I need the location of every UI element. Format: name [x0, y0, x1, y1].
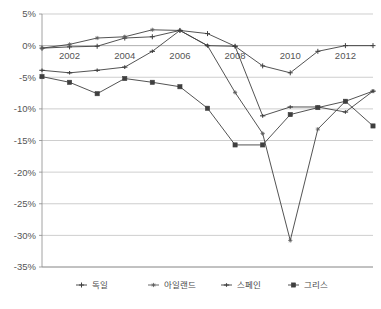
x-axis-tick-label: 2006 [169, 50, 190, 61]
legend-label: 아일랜드 [164, 280, 196, 290]
legend-item-2[interactable]: 아일랜드 [148, 280, 196, 290]
legend-item-4[interactable]: 그리스 [288, 280, 328, 290]
legend-item-1[interactable]: 독일 [76, 280, 108, 290]
x-axis-tick-label: 2002 [59, 50, 80, 61]
legend-label: 스페인 [237, 280, 261, 290]
data-point-marker [67, 80, 71, 84]
series-4 [40, 75, 375, 148]
x-axis-tick-label: 2004 [114, 50, 135, 61]
series-1 [40, 28, 376, 75]
y-axis-tick-label: -25% [14, 198, 37, 209]
legend-item-3[interactable]: 스페인 [221, 280, 261, 290]
data-point-marker [123, 76, 127, 80]
data-point-marker [150, 80, 154, 84]
data-point-marker [291, 283, 295, 287]
y-axis-tick-label: -15% [14, 135, 37, 146]
clipped-caption-fragment [2, 297, 58, 306]
y-axis-tick-label: -20% [14, 167, 37, 178]
legend-label: 독일 [92, 280, 108, 290]
legend-label: 그리스 [304, 280, 328, 290]
y-axis-tick-label: 5% [22, 8, 36, 19]
data-point-marker [316, 106, 320, 110]
line-chart: 5%0%-5%-10%-15%-20%-25%-30%-35%200220042… [0, 0, 381, 309]
data-point-marker [233, 143, 237, 147]
data-point-marker [95, 92, 99, 96]
series-2 [40, 28, 375, 243]
x-axis-tick-label: 2012 [335, 50, 356, 61]
y-axis-tick-label: 0% [22, 40, 36, 51]
data-point-marker [343, 99, 347, 103]
y-axis-tick-label: -5% [19, 72, 36, 83]
chart-canvas: 5%0%-5%-10%-15%-20%-25%-30%-35%200220042… [0, 0, 381, 309]
x-axis-tick-label: 2010 [280, 50, 301, 61]
data-point-marker [205, 106, 209, 110]
series-line [42, 30, 373, 72]
data-point-marker [40, 75, 44, 79]
series-line [42, 30, 373, 241]
y-axis-tick-label: -30% [14, 230, 37, 241]
data-point-marker [371, 124, 375, 128]
data-point-marker [288, 112, 292, 116]
series-line [42, 77, 373, 145]
y-axis-tick-label: -35% [14, 261, 37, 272]
y-axis-tick-label: -10% [14, 103, 37, 114]
series-3 [39, 29, 375, 118]
data-point-marker [261, 143, 265, 147]
data-point-marker [178, 85, 182, 89]
series-line [42, 30, 373, 115]
